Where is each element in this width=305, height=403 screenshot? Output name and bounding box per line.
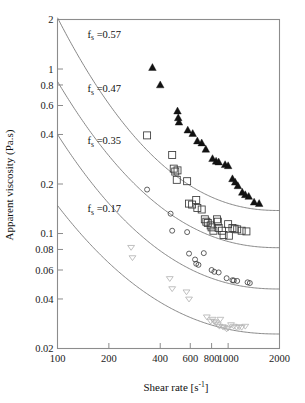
figure-container: 210.80.60.40.20.10.080.060.040.02 100200… — [0, 0, 305, 403]
fit-curve — [58, 206, 280, 334]
data-point — [128, 245, 135, 250]
series-open-circle — [145, 187, 253, 285]
data-point — [169, 152, 176, 159]
x-tick-label: 1000 — [218, 353, 239, 364]
data-point — [185, 230, 190, 235]
data-point — [187, 251, 192, 256]
data-point — [129, 256, 136, 261]
x-tick-labels: 10020040060080010002000 — [50, 353, 290, 364]
y-tick-label: 0.8 — [40, 80, 53, 91]
fit-curve — [58, 81, 280, 247]
data-point — [186, 297, 193, 302]
data-point — [169, 287, 176, 292]
data-point — [166, 277, 173, 282]
data-point — [144, 132, 151, 139]
data-point — [201, 251, 206, 256]
data-point — [145, 187, 150, 192]
x-tick-label: 200 — [101, 353, 117, 364]
series-annotation-fs035: fs =0.35 — [88, 135, 121, 149]
x-axis-title: Shear rate [s-1] — [144, 380, 209, 393]
series-open-triangle-down — [128, 245, 249, 331]
y-tick-label: 0.04 — [35, 294, 54, 305]
y-tick-label: 2 — [48, 14, 53, 25]
viscosity-vs-shear-rate-chart: 210.80.60.40.20.10.080.060.040.02 100200… — [0, 0, 305, 403]
data-point — [149, 64, 157, 71]
series-annotation-fs047: fs =0.47 — [88, 83, 121, 97]
data-point — [193, 196, 200, 203]
y-tick-label: 0.06 — [35, 265, 53, 276]
axis-ticks — [58, 20, 280, 349]
axis-frame — [58, 20, 280, 349]
y-tick-label: 0.4 — [40, 129, 54, 140]
series-annotation-fs017: fs =0.17 — [88, 203, 121, 217]
data-point — [198, 206, 205, 213]
data-point — [183, 290, 190, 295]
y-tick-label: 0.6 — [40, 100, 53, 111]
series-annotation-fs057: fs =0.57 — [88, 29, 121, 43]
y-tick-label: 1 — [48, 64, 53, 75]
data-point — [170, 228, 175, 233]
data-point — [224, 276, 229, 281]
series-filled-triangle-up — [149, 64, 263, 207]
series-open-square — [144, 132, 250, 239]
data-point — [174, 107, 182, 114]
y-tick-label: 0.08 — [35, 244, 53, 255]
data-point — [202, 145, 210, 152]
x-tick-label: 400 — [152, 353, 168, 364]
series-annotations: fs =0.57fs =0.47fs =0.35fs =0.17 — [88, 29, 121, 217]
y-tick-label: 0.1 — [40, 228, 53, 239]
y-tick-labels: 210.80.60.40.20.10.080.060.040.02 — [35, 14, 54, 354]
data-point — [173, 176, 180, 183]
x-tick-label: 600 — [182, 353, 198, 364]
data-point — [235, 278, 240, 283]
y-tick-label: 0.2 — [40, 179, 53, 190]
data-point — [156, 81, 164, 88]
x-tick-label: 2000 — [269, 353, 290, 364]
x-tick-label: 100 — [50, 353, 66, 364]
data-point — [184, 126, 192, 133]
data-points — [128, 64, 263, 332]
y-axis-title: Apparent viscosity (Pa.s) — [3, 129, 16, 240]
